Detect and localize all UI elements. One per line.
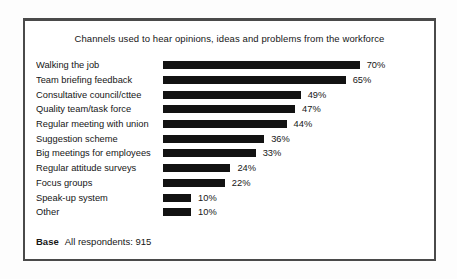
bar (163, 76, 346, 84)
value-label: 70% (367, 60, 386, 70)
bar-row: Big meetings for employees 33% (36, 146, 430, 161)
value-label: 44% (294, 119, 313, 129)
category-label: Focus groups (36, 178, 163, 188)
bar-row: Other 10% (36, 205, 430, 220)
base-label: Base (36, 236, 59, 247)
value-label: 47% (302, 104, 321, 114)
value-label: 33% (263, 148, 282, 158)
bar-row: Suggestion scheme 36% (36, 131, 430, 146)
bar-row: Focus groups 22% (36, 176, 430, 191)
bar (163, 135, 264, 143)
base-note: BaseAll respondents: 915 (36, 236, 151, 247)
bar-row: Regular meeting with union 44% (36, 117, 430, 132)
value-label: 10% (198, 193, 217, 203)
value-label: 36% (271, 134, 290, 144)
bar (163, 194, 191, 202)
bar-row: Quality team/task force 47% (36, 102, 430, 117)
value-label: 10% (198, 207, 217, 217)
category-label: Quality team/task force (36, 104, 163, 114)
bar (163, 61, 360, 69)
chart-title: Channels used to hear opinions, ideas an… (25, 33, 434, 44)
value-label: 49% (308, 90, 327, 100)
bar (163, 149, 256, 157)
bar-row: Regular attitude surveys 24% (36, 161, 430, 176)
bar-row: Consultative council/cttee 49% (36, 87, 430, 102)
category-label: Walking the job (36, 60, 163, 70)
value-label: 24% (237, 163, 256, 173)
bar-row: Speak-up system 10% (36, 190, 430, 205)
value-label: 22% (232, 178, 251, 188)
category-label: Regular attitude surveys (36, 163, 163, 173)
category-label: Team briefing feedback (36, 75, 163, 85)
chart-frame: Channels used to hear opinions, ideas an… (23, 18, 436, 261)
bar-row: Walking the job 70% (36, 58, 430, 73)
category-label: Suggestion scheme (36, 134, 163, 144)
bar (163, 91, 301, 99)
category-label: Speak-up system (36, 193, 163, 203)
category-label: Big meetings for employees (36, 148, 163, 158)
bar (163, 164, 230, 172)
category-label: Consultative council/cttee (36, 90, 163, 100)
bar (163, 208, 191, 216)
bar (163, 105, 295, 113)
category-label: Other (36, 207, 163, 217)
bar-rows: Walking the job 70% Team briefing feedba… (36, 58, 430, 220)
base-text: All respondents: 915 (65, 236, 152, 247)
value-label: 65% (353, 75, 372, 85)
bar (163, 179, 225, 187)
bar (163, 120, 287, 128)
category-label: Regular meeting with union (36, 119, 163, 129)
bar-row: Team briefing feedback 65% (36, 73, 430, 88)
